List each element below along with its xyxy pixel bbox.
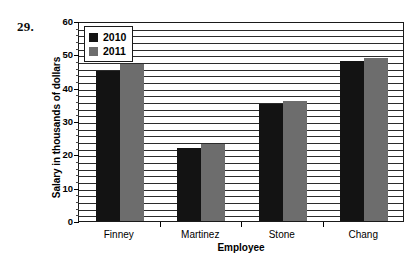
y-axis-minor-tick <box>76 142 79 143</box>
y-axis-minor-tick <box>76 162 79 163</box>
y-axis-minor-tick <box>76 202 79 203</box>
y-axis-tick-mark <box>74 89 79 90</box>
y-axis-minor-tick <box>76 215 79 216</box>
chart-legend: 20102011 <box>84 26 133 62</box>
y-axis-minor-tick <box>76 102 79 103</box>
bar <box>177 148 201 221</box>
y-axis-minor-tick <box>76 175 79 176</box>
y-axis-minor-tick <box>76 95 79 96</box>
bar <box>201 144 225 221</box>
legend-swatch-icon <box>89 33 98 42</box>
y-axis-minor-tick <box>76 49 79 50</box>
x-axis-tick-label: Chang <box>349 229 378 240</box>
legend-item: 2011 <box>89 44 126 58</box>
y-axis-minor-tick <box>76 35 79 36</box>
y-axis-minor-tick <box>76 109 79 110</box>
bar <box>283 101 307 221</box>
y-axis-minor-tick <box>76 29 79 30</box>
y-axis-minor-tick <box>76 82 79 83</box>
y-axis-tick-label: 30 <box>53 117 73 127</box>
x-axis-tick-label: Stone <box>269 229 295 240</box>
y-axis-tick-mark <box>74 22 79 23</box>
legend-label: 2010 <box>103 32 126 43</box>
x-axis-tick-mark <box>323 222 324 227</box>
legend-item: 2010 <box>89 30 126 44</box>
y-axis-minor-tick <box>76 182 79 183</box>
y-axis-minor-tick <box>76 129 79 130</box>
y-axis-tick-mark <box>74 222 79 223</box>
x-axis-tick-mark <box>160 222 161 227</box>
y-axis-minor-tick <box>76 209 79 210</box>
y-axis-minor-tick <box>76 62 79 63</box>
problem-number: 29. <box>17 19 34 35</box>
y-axis-minor-tick <box>76 115 79 116</box>
y-axis-tick-label: 20 <box>53 151 73 161</box>
y-axis-tick-mark <box>74 155 79 156</box>
y-axis-tick-mark <box>74 189 79 190</box>
legend-label: 2011 <box>103 46 126 57</box>
y-axis-tick-label: 60 <box>53 17 73 27</box>
bar <box>120 64 144 221</box>
y-axis-tick-label: 0 <box>53 217 73 227</box>
y-axis-minor-tick <box>76 169 79 170</box>
y-axis-tick-mark <box>74 55 79 56</box>
bar <box>259 104 283 221</box>
x-axis-tick-label: Martinez <box>181 229 219 240</box>
y-axis-minor-tick <box>76 149 79 150</box>
y-axis-minor-tick <box>76 75 79 76</box>
x-axis-title: Employee <box>78 242 404 253</box>
y-axis-tick-labels: 0102030405060 <box>53 22 73 222</box>
y-axis-minor-tick <box>76 42 79 43</box>
bar <box>364 58 388 221</box>
y-axis-tick-label: 50 <box>53 51 73 61</box>
y-axis-minor-tick <box>76 69 79 70</box>
legend-swatch-icon <box>89 47 98 56</box>
bar <box>340 61 364 221</box>
x-axis-tick-mark <box>241 222 242 227</box>
y-axis-tick-mark <box>74 122 79 123</box>
x-axis-tick-label: Finney <box>104 229 134 240</box>
y-axis-minor-tick <box>76 135 79 136</box>
bar <box>96 71 120 221</box>
y-axis-minor-tick <box>76 195 79 196</box>
y-axis-tick-label: 40 <box>53 84 73 94</box>
y-axis-tick-label: 10 <box>53 184 73 194</box>
